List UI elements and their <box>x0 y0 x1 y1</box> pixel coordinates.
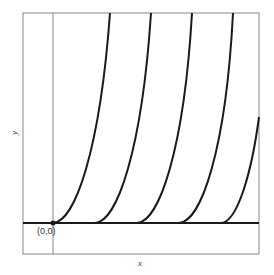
curve-3 <box>137 13 192 223</box>
x-axis-label: x <box>138 258 142 268</box>
curve-2 <box>95 13 151 223</box>
y-axis-label: y <box>9 131 19 135</box>
curve-1 <box>53 13 110 223</box>
plot-frame <box>23 13 259 254</box>
curve-family <box>53 13 259 223</box>
origin-point <box>51 221 56 226</box>
curve-4 <box>179 13 233 223</box>
curve-5 <box>221 117 259 223</box>
origin-label: (0,0) <box>37 226 56 236</box>
